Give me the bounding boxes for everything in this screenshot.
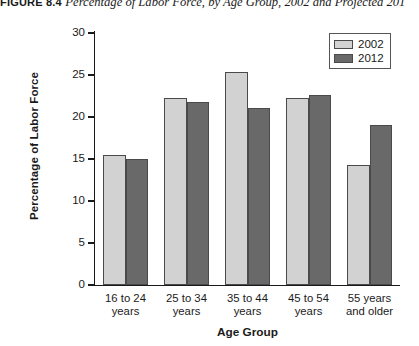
legend-item-2012: 2012 bbox=[334, 51, 384, 65]
y-axis-tick-mark bbox=[88, 32, 94, 33]
figure-container: FIGURE 8.4 Percentage of Labor Force, by… bbox=[0, 0, 419, 346]
x-axis-label: Age Group bbox=[95, 325, 400, 339]
bar-2002-group-5 bbox=[347, 165, 370, 285]
y-axis-tick-mark bbox=[88, 200, 94, 201]
x-axis-category-label: 55 yearsand older bbox=[330, 292, 410, 317]
y-axis-tick-label: 15 bbox=[56, 153, 85, 164]
bar-2002-group-3 bbox=[225, 72, 248, 285]
plot-area bbox=[95, 33, 400, 285]
legend-swatch-2002 bbox=[334, 40, 353, 49]
y-axis-tick-mark bbox=[88, 242, 94, 243]
bar-2012-group-2 bbox=[187, 102, 210, 285]
legend-label-2012: 2012 bbox=[358, 52, 384, 64]
bar-2002-group-2 bbox=[164, 98, 187, 285]
figure-title: FIGURE 8.4 Percentage of Labor Force, by… bbox=[0, 0, 419, 9]
chart-legend: 2002 2012 bbox=[329, 33, 391, 69]
y-axis-tick-mark bbox=[88, 158, 94, 159]
y-axis-label: Percentage of Labor Force bbox=[28, 46, 40, 246]
y-axis-tick-label: 5 bbox=[56, 237, 85, 248]
y-axis-tick-label: 10 bbox=[56, 195, 85, 206]
y-axis-tick-label: 0 bbox=[56, 279, 85, 290]
y-axis-tick-label: 30 bbox=[56, 27, 85, 38]
bar-2002-group-1 bbox=[103, 155, 126, 285]
x-axis-line bbox=[94, 285, 400, 286]
legend-item-2002: 2002 bbox=[334, 37, 384, 51]
bar-2012-group-3 bbox=[248, 108, 271, 285]
legend-label-2002: 2002 bbox=[358, 38, 384, 50]
figure-caption: Percentage of Labor Force, by Age Group,… bbox=[65, 0, 405, 9]
bar-2002-group-4 bbox=[286, 98, 309, 285]
bar-2012-group-1 bbox=[126, 159, 149, 285]
bar-2012-group-5 bbox=[370, 125, 393, 285]
y-axis-tick-label: 20 bbox=[56, 111, 85, 122]
x-axis-category-label-line: 55 years bbox=[330, 292, 410, 305]
bar-2012-group-4 bbox=[309, 95, 332, 285]
y-axis-tick-mark bbox=[88, 74, 94, 75]
x-axis-category-label-line: and older bbox=[330, 305, 410, 318]
legend-swatch-2012 bbox=[334, 54, 353, 63]
y-axis-tick-label: 25 bbox=[56, 69, 85, 80]
y-axis-tick-mark bbox=[88, 116, 94, 117]
y-axis-tick-mark bbox=[88, 284, 94, 285]
figure-number: FIGURE 8.4 bbox=[0, 0, 62, 8]
